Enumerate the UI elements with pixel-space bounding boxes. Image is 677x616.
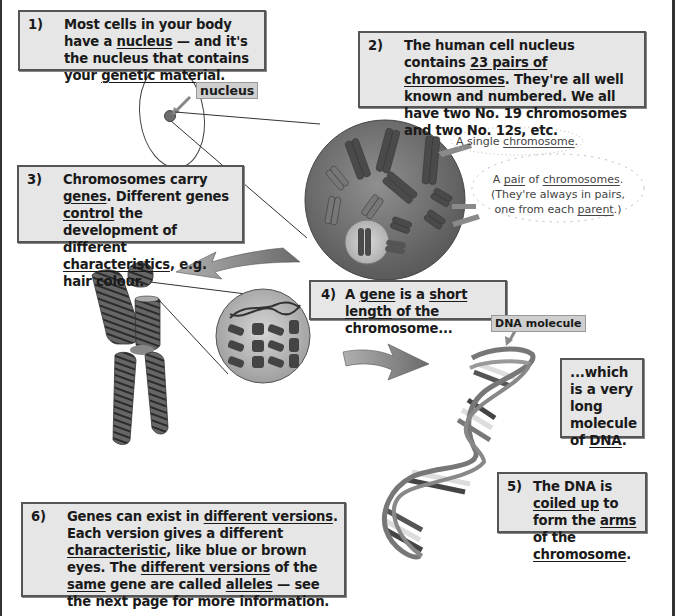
- fact-text: Most cells in your body have a nucleus —…: [64, 16, 260, 84]
- key-term: alleles: [226, 577, 273, 592]
- text-segment: The DNA is: [533, 479, 612, 494]
- fact-number: 5): [507, 478, 522, 495]
- nucleus-label: nucleus: [196, 82, 258, 99]
- text-segment: . Different genes: [107, 189, 229, 204]
- nucleus-enlarged: [305, 120, 480, 280]
- fact-text: The human cell nucleus contains 23 pairs…: [404, 37, 640, 139]
- key-term: characteristics: [63, 257, 170, 272]
- text-segment: A single: [456, 135, 503, 148]
- key-term: chromosomes: [543, 173, 620, 186]
- chromosome-pair-callout: A pair of chromosomes. (They're always i…: [483, 172, 633, 217]
- fact-text: A gene is a short length of the chromoso…: [345, 286, 501, 337]
- key-term: parent: [578, 203, 614, 216]
- key-term: chromosome: [503, 135, 574, 148]
- text-segment: .: [622, 432, 627, 448]
- key-term: genes: [63, 189, 107, 204]
- text-segment: .: [575, 135, 579, 148]
- text-segment: A: [493, 173, 504, 186]
- key-term: gene: [359, 287, 395, 302]
- fact-text: ...which is a very long molecule of DNA.: [570, 364, 638, 449]
- key-term: pair: [504, 173, 525, 186]
- fact-box-6: 6) Genes can exist in different versions…: [21, 502, 346, 597]
- fact-box-5: 5) The DNA is coiled up to form the arms…: [497, 472, 647, 533]
- text-segment: Chromosomes carry: [63, 172, 207, 187]
- gene-zoom-circle: [216, 289, 310, 383]
- text-segment: .: [626, 547, 631, 562]
- key-term: chromosome: [533, 547, 626, 562]
- key-term: control: [63, 206, 114, 221]
- key-term: different versions: [204, 509, 333, 524]
- fact-text: The DNA is coiled up to form the arms of…: [533, 478, 641, 563]
- key-term: arms: [600, 513, 636, 528]
- single-chromosome-callout: A single chromosome.: [456, 134, 578, 149]
- text-segment: .: [220, 68, 225, 83]
- fact-number: 3): [27, 171, 42, 188]
- fact-box-3: 3) Chromosomes carry genes. Different ge…: [17, 165, 244, 243]
- key-term: coiled up: [533, 496, 599, 511]
- text-segment: .): [614, 203, 622, 216]
- fact-text: Genes can exist in different versions. E…: [67, 508, 340, 610]
- text-segment: is a: [395, 287, 429, 302]
- fact-box-1: 1) Most cells in your body have a nucleu…: [18, 10, 266, 71]
- key-term: nucleus: [117, 34, 173, 49]
- fact-number: 1): [28, 16, 43, 33]
- fact-number: 2): [368, 37, 383, 54]
- arrow-to-dna: [343, 344, 429, 380]
- fact-box-4: 4) A gene is a short length of the chrom…: [309, 280, 507, 320]
- dna-fact-box: ...which is a very long molecule of DNA.: [560, 358, 644, 438]
- text-segment: gene are called: [106, 577, 226, 592]
- text-segment: A: [345, 287, 359, 302]
- key-term: same: [67, 577, 106, 592]
- dna-molecule-label: DNA molecule: [491, 315, 586, 332]
- key-term: DNA: [589, 432, 622, 448]
- fact-box-2: 2) The human cell nucleus contains 23 pa…: [358, 31, 646, 108]
- text-segment: Genes can exist in: [67, 509, 204, 524]
- text-segment: of the: [533, 530, 576, 545]
- fact-number: 6): [31, 508, 46, 525]
- text-segment: of the: [270, 560, 317, 575]
- fact-text: Chromosomes carry genes. Different genes…: [63, 171, 238, 290]
- key-term: different versions: [141, 560, 270, 575]
- key-term: characteristic: [67, 543, 166, 558]
- text-segment: of: [525, 173, 543, 186]
- key-term: genetic material: [101, 68, 220, 83]
- fact-number: 4): [321, 286, 336, 303]
